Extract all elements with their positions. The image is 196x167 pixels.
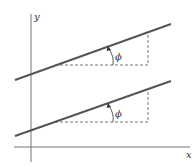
lower-angle-arc [109,106,113,122]
lower-angle-label: ϕ [115,108,122,119]
parallel-lines-diagram: y x ϕ ϕ [0,0,196,167]
upper-angle-arc [109,49,113,65]
upper-angle-label: ϕ [115,51,122,62]
upper-line-group: ϕ [15,24,171,80]
lower-line-group: ϕ [15,81,171,136]
x-axis-label: x [186,149,192,160]
y-axis-label: y [33,11,40,22]
